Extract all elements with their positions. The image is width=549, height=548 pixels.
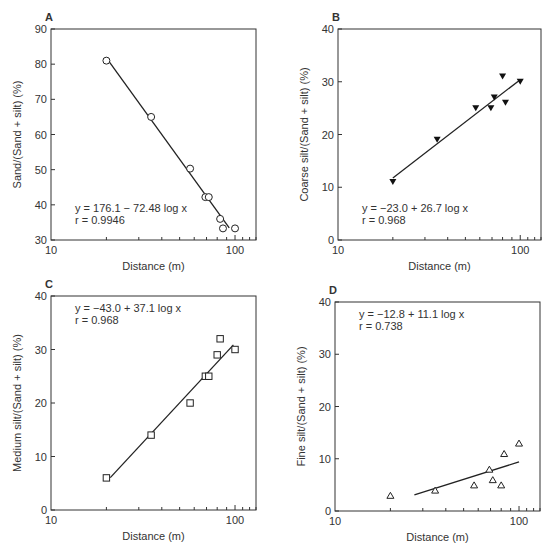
data-point [487, 105, 494, 111]
chart-c: C01020304010100Distance (m)Medium silt/(… [0, 275, 275, 548]
data-point [103, 475, 109, 481]
y-tick-label: 20 [35, 397, 47, 409]
x-axis-label: Distance (m) [406, 531, 468, 543]
y-axis-label: Medium silt/(Sand + silt) (%) [11, 334, 23, 472]
data-point [472, 105, 479, 111]
y-tick-label: 40 [35, 199, 47, 211]
regression-line [110, 345, 233, 478]
correlation-coefficient: r = 0.968 [362, 214, 406, 226]
x-tick-label: 100 [226, 514, 244, 526]
fit-equation: y = 176.1 − 72.48 log x [75, 202, 187, 214]
panel-label: A [45, 11, 53, 23]
data-point [471, 482, 478, 488]
y-tick-label: 20 [322, 129, 334, 141]
y-tick-label: 70 [35, 93, 47, 105]
y-tick-label: 30 [322, 76, 334, 88]
panel-c: C01020304010100Distance (m)Medium silt/(… [0, 275, 275, 548]
correlation-coefficient: r = 0.968 [75, 314, 119, 326]
x-tick-label: 10 [329, 515, 341, 527]
y-tick-label: 90 [35, 23, 47, 35]
data-point [486, 466, 493, 472]
y-tick-label: 30 [35, 344, 47, 356]
panel-b: B01020304010100Distance (m)Coarse silt/(… [275, 0, 549, 275]
chart-b: B01020304010100Distance (m)Coarse silt/(… [275, 0, 549, 275]
plot-frame [335, 302, 540, 511]
x-tick-label: 10 [45, 514, 57, 526]
data-point [489, 477, 496, 483]
chart-a: A3040506070809010100Distance (m)Sand/(Sa… [0, 0, 275, 275]
regression-line [393, 80, 520, 178]
fit-equation: y = −43.0 + 37.1 log x [75, 302, 182, 314]
y-axis-label: Sand/(Sand + silt) (%) [11, 81, 23, 189]
panel-label: C [45, 278, 53, 290]
x-axis-label: Distance (m) [122, 260, 184, 272]
x-tick-label: 100 [510, 515, 528, 527]
data-point [219, 225, 226, 232]
data-point [187, 165, 194, 172]
chart-d: D01020304010100Distance (m)Fine silt/(Sa… [275, 275, 549, 548]
panel-a: A3040506070809010100Distance (m)Sand/(Sa… [0, 0, 275, 275]
panel-label: D [329, 284, 337, 296]
data-point [501, 451, 508, 457]
data-point [217, 215, 224, 222]
data-point [187, 400, 193, 406]
correlation-coefficient: r = 0.9946 [75, 214, 125, 226]
panel-label: B [332, 11, 340, 23]
correlation-coefficient: r = 0.738 [359, 320, 403, 332]
regression-line [414, 462, 519, 495]
y-tick-label: 30 [319, 348, 331, 360]
data-point [232, 225, 239, 232]
data-point [387, 492, 394, 498]
y-tick-label: 40 [319, 296, 331, 308]
y-tick-label: 60 [35, 129, 47, 141]
fit-equation: y = −23.0 + 26.7 log x [362, 202, 469, 214]
x-tick-label: 100 [226, 244, 244, 256]
data-point [516, 440, 523, 446]
data-point [499, 73, 506, 79]
data-point [103, 57, 110, 64]
data-point [205, 194, 212, 201]
y-tick-label: 20 [319, 401, 331, 413]
panel-d: D01020304010100Distance (m)Fine silt/(Sa… [275, 275, 549, 548]
y-axis-label: Fine silt/(Sand + silt) (%) [295, 346, 307, 466]
y-axis-label: Coarse silt/(Sand + silt) (%) [298, 67, 310, 201]
data-point [206, 373, 212, 379]
data-point [232, 346, 238, 352]
fit-equation: y = −12.8 + 11.1 log x [359, 308, 465, 320]
data-point [389, 179, 396, 185]
y-tick-label: 10 [322, 181, 334, 193]
y-tick-label: 10 [319, 453, 331, 465]
x-tick-label: 100 [511, 244, 529, 256]
data-point [217, 336, 223, 342]
plot-frame [51, 296, 256, 510]
y-tick-label: 40 [35, 290, 47, 302]
y-tick-label: 10 [35, 451, 47, 463]
x-tick-label: 10 [45, 244, 57, 256]
data-point [148, 113, 155, 120]
x-axis-label: Distance (m) [408, 260, 470, 272]
x-axis-label: Distance (m) [122, 530, 184, 542]
y-tick-label: 80 [35, 58, 47, 70]
data-point [214, 352, 220, 358]
data-point [498, 482, 505, 488]
x-tick-label: 10 [332, 244, 344, 256]
y-tick-label: 50 [35, 164, 47, 176]
data-point [502, 100, 509, 106]
data-point [148, 432, 154, 438]
y-tick-label: 40 [322, 23, 334, 35]
